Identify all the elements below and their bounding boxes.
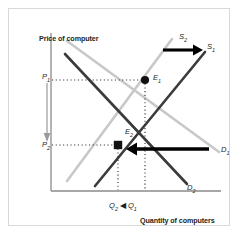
tick-label-quantity-two-subscript: 2 [115,206,118,212]
curve-label-s1-subscript: 1 [212,47,215,53]
tick-label-quantity-one-subscript: 1 [134,206,137,212]
y-axis-title: Price of computer [39,35,98,44]
point-label-e1-subscript: 1 [158,78,161,84]
curve-label-s2-subscript: 2 [184,37,187,43]
x-axis-title: Quantity of computers [140,217,215,226]
curve-label-d2-subscript: 2 [192,188,195,194]
demand-curve-d2 [65,54,187,184]
tick-label-price-two: P2 [42,140,50,151]
equilibrium-point-e1 [141,76,149,84]
equilibrium-point-e2 [114,141,122,149]
demand-shift-arrow [126,143,209,156]
figure-frame: Price of computer Quantity of computers … [8,8,230,226]
tick-label-price-one-subscript: 1 [47,77,50,83]
curve-label-s1: S1 [207,42,215,53]
price-decrease-arrow [44,83,51,142]
curve-label-d2: D2 [187,183,195,194]
curve-label-d1-subscript: 1 [226,150,229,156]
figure-container: Price of computer Quantity of computers … [0,0,240,235]
curve-label-s2: S2 [179,32,187,43]
curve-label-d1: D1 [221,145,229,156]
quantity-tick-group: Q2 ◀ Q1 [109,201,137,212]
tick-label-quantity-one: Q1 [128,201,137,212]
tick-label-price-two-subscript: 2 [47,145,50,151]
tick-label-quantity-two: Q2 [109,201,118,212]
point-label-e1: E1 [153,73,161,84]
point-label-e2-subscript: 2 [130,132,133,138]
quantity-decrease-arrow-icon: ◀ [120,202,126,210]
point-label-e2: E2 [125,127,133,138]
tick-label-price-one: P1 [42,72,50,83]
supply-shift-arrow [163,45,203,56]
